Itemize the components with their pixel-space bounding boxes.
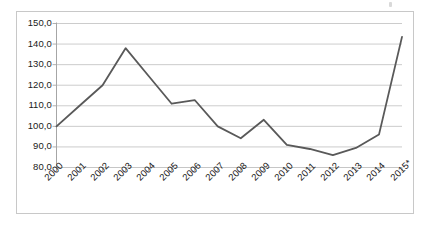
y-axis-tick-label: 120,0 <box>14 79 52 90</box>
scan-artifact-speck <box>389 2 392 7</box>
y-axis-tick-label: 90,0 <box>14 140 52 151</box>
data-series-line <box>57 37 403 155</box>
y-axis-tick-label: 100,0 <box>14 120 52 131</box>
y-axis-tick-label: 130,0 <box>14 58 52 69</box>
gridlines <box>57 24 403 168</box>
line-chart <box>0 0 435 230</box>
y-axis-tick-label: 110,0 <box>14 99 52 110</box>
y-axis-tick-label: 150,0 <box>14 17 52 28</box>
y-axis-tick-label: 140,0 <box>14 38 52 49</box>
